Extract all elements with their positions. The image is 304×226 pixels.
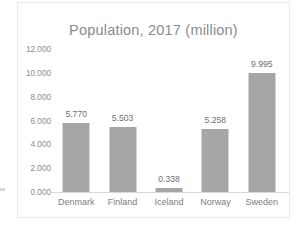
bar-sweden[interactable]	[248, 73, 275, 192]
chart-screenshot: Population, 2017 (million) 12.000 10.000…	[0, 0, 304, 226]
bar-group: 5.770	[53, 49, 99, 192]
y-axis-tick-label: 8.000	[11, 92, 51, 101]
bar-data-label: 9.995	[251, 59, 273, 69]
chart-title: Population, 2017 (million)	[17, 22, 290, 38]
y-axis-tick-label: 12.000	[11, 45, 51, 54]
bar-group: 5.503	[99, 49, 145, 192]
x-axis-category-label: Sweden	[246, 197, 279, 207]
bar-chart: Population, 2017 (million) 12.000 10.000…	[17, 2, 290, 218]
scan-artifact-mark	[0, 188, 5, 191]
y-axis-tick-label: 6.000	[11, 116, 51, 125]
x-axis-category-label: Iceland	[154, 197, 183, 207]
bar-group: 0.338	[146, 49, 192, 192]
bar-series: 5.770 5.503 0.338 5.258 9.995	[53, 49, 285, 192]
bar-iceland[interactable]	[155, 188, 182, 192]
bar-data-label: 5.503	[112, 113, 134, 123]
bar-finland[interactable]	[109, 127, 136, 193]
y-axis-tick-label: 2.000	[11, 164, 51, 173]
y-axis-tick-label: 0.000	[11, 188, 51, 197]
x-axis-line	[50, 192, 289, 193]
y-axis-tick-label: 4.000	[11, 140, 51, 149]
bar-denmark[interactable]	[63, 123, 90, 192]
bar-data-label: 0.338	[158, 174, 180, 184]
x-axis-category-label: Finland	[108, 197, 138, 207]
x-axis-category-label: Denmark	[58, 197, 95, 207]
bar-group: 5.258	[192, 49, 238, 192]
x-axis-category-label: Norway	[200, 197, 231, 207]
y-axis-tick-label: 10.000	[11, 68, 51, 77]
bar-norway[interactable]	[202, 129, 229, 192]
bar-group: 9.995	[239, 49, 285, 192]
bar-data-label: 5.770	[65, 109, 87, 119]
bar-data-label: 5.258	[205, 115, 227, 125]
